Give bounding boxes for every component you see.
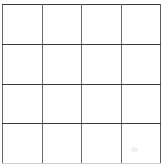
grid-cell-r4-c1[interactable] — [3, 124, 43, 164]
grid-row — [3, 124, 161, 164]
grid-table — [2, 4, 161, 164]
grid-cell-r3-c3[interactable] — [82, 84, 122, 124]
grid-cell-r2-c2[interactable] — [42, 44, 82, 84]
grid-body — [3, 5, 161, 164]
grid-row — [3, 5, 161, 45]
grid-cell-r1-c1[interactable] — [3, 5, 43, 45]
grid-cell-r3-c4[interactable] — [121, 84, 161, 124]
grid-cell-r4-c3[interactable] — [82, 124, 122, 164]
grid-cell-r1-c2[interactable] — [42, 5, 82, 45]
grid-cell-r1-c4[interactable] — [121, 5, 161, 45]
grid-cell-r2-c1[interactable] — [3, 44, 43, 84]
grid-cell-r4-c4[interactable] — [121, 124, 161, 164]
grid-cell-r3-c2[interactable] — [42, 84, 82, 124]
grid-cell-r4-c2[interactable] — [42, 124, 82, 164]
grid-canvas — [0, 0, 161, 166]
grid-row — [3, 44, 161, 84]
grid-cell-r2-c4[interactable] — [121, 44, 161, 84]
grid-cell-r3-c1[interactable] — [3, 84, 43, 124]
grid-cell-r1-c3[interactable] — [82, 5, 122, 45]
grid-row — [3, 84, 161, 124]
grid-cell-r2-c3[interactable] — [82, 44, 122, 84]
